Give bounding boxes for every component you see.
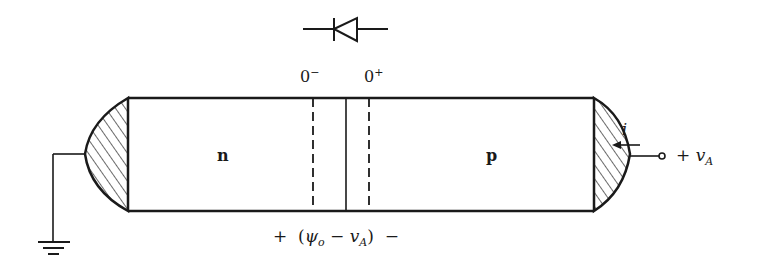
boundary-label-right: 0+ [364, 66, 383, 86]
junction-voltage-label: + (ψo − vA) − [273, 226, 399, 249]
current-label: i [622, 120, 627, 139]
diode-symbol-icon [303, 18, 388, 41]
ground-icon [38, 154, 85, 254]
semiconductor-bar [128, 98, 594, 211]
boundary-label-left: 0− [300, 66, 319, 86]
terminal-wire [630, 153, 665, 159]
p-region-label: p [486, 146, 497, 165]
left-ohmic-contact [85, 98, 128, 211]
terminal-voltage-label: + vA [676, 145, 713, 168]
depletion-boundaries [313, 98, 369, 211]
n-region-label: n [217, 146, 229, 165]
right-ohmic-contact [594, 98, 630, 211]
